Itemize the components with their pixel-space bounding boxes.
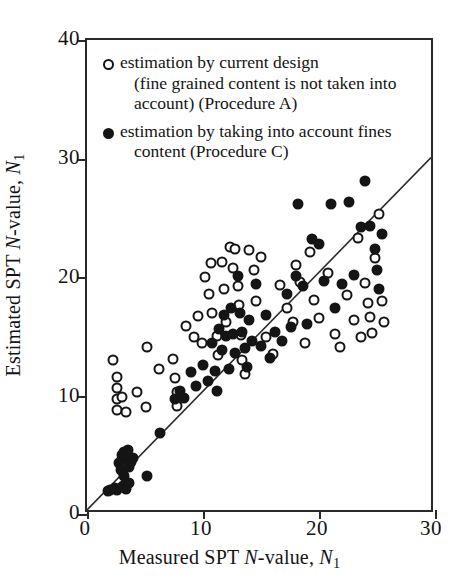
data-point [128, 453, 139, 464]
data-point [121, 407, 132, 418]
data-point [249, 264, 260, 275]
data-point [211, 385, 222, 396]
y-tick-label-10: 10 [38, 385, 80, 406]
legend-a-line1: estimation by current design [120, 52, 319, 72]
y-axis-title-part-b: -value, [2, 174, 24, 236]
data-point [112, 371, 123, 382]
data-point [378, 317, 389, 328]
legend-c-line2: content (Procedure C) [120, 141, 423, 162]
y-tick-label-30: 30 [38, 147, 80, 168]
legend-item-procedure-c: estimation by taking into account fines … [103, 121, 423, 162]
data-point [348, 269, 359, 280]
x-axis-title: Measured SPT N-value, N1 [0, 546, 459, 572]
data-point [334, 341, 345, 352]
data-point [202, 376, 213, 387]
data-point [191, 381, 202, 392]
x-axis-title-n2: N [319, 546, 333, 568]
legend-a-line3: account) (Procedure A) [120, 93, 423, 114]
x-axis-title-part-b: -value, [258, 546, 320, 568]
data-point [251, 295, 262, 306]
y-tick-mark-0 [78, 514, 87, 516]
data-point [179, 392, 190, 403]
x-axis-title-sub: 1 [333, 555, 340, 571]
data-point [260, 309, 271, 320]
data-point [230, 243, 241, 254]
data-point [293, 198, 304, 209]
data-point [155, 428, 166, 439]
y-tick-label-40: 40 [38, 28, 80, 49]
x-tick-mark-20 [319, 510, 321, 519]
data-point [353, 232, 364, 243]
data-point [232, 281, 243, 292]
data-point [200, 272, 211, 283]
data-point [142, 471, 153, 482]
y-axis-title-wrapper: Estimated SPT N-value, N1 [2, 28, 28, 502]
data-point [256, 340, 267, 351]
x-tick-mark-30 [435, 510, 437, 519]
data-point [330, 328, 341, 339]
data-point [367, 327, 378, 338]
chart-legend: estimation by current design (fine grain… [103, 52, 423, 169]
data-point [360, 277, 371, 288]
data-point [244, 314, 255, 325]
data-point [369, 253, 380, 264]
x-tick-label-30: 30 [401, 518, 459, 539]
data-point [374, 209, 385, 220]
data-point [374, 283, 385, 294]
data-point [116, 391, 127, 402]
data-point [309, 294, 320, 305]
data-point [290, 260, 301, 271]
data-point [209, 365, 220, 376]
y-tick-mark-20 [78, 277, 87, 279]
y-axis-title-part-a: Estimated SPT [2, 250, 24, 377]
data-point [314, 313, 325, 324]
data-point [216, 345, 227, 356]
data-point [196, 338, 207, 349]
data-point [376, 295, 387, 306]
y-tick-label-20: 20 [38, 266, 80, 287]
legend-item-procedure-a-text: estimation by current design (fine grain… [120, 52, 423, 114]
data-point [318, 275, 329, 286]
data-point [167, 353, 178, 364]
data-point [180, 320, 191, 331]
y-axis-title: Estimated SPT N-value, N1 [2, 154, 24, 377]
x-tick-label-0: 0 [55, 518, 115, 539]
data-point [216, 256, 227, 267]
data-point [337, 279, 348, 290]
data-point [237, 326, 248, 337]
data-point [242, 362, 253, 373]
data-point [256, 251, 267, 262]
data-point [344, 197, 355, 208]
data-point [276, 335, 287, 346]
data-point [123, 478, 134, 489]
data-point [376, 229, 387, 240]
legend-item-procedure-c-text: estimation by taking into account fines … [120, 121, 423, 162]
data-point [281, 302, 292, 313]
data-point [360, 176, 371, 187]
data-point [153, 364, 164, 375]
y-tick-mark-10 [78, 396, 87, 398]
data-point [186, 366, 197, 377]
data-point [372, 264, 383, 275]
data-point [365, 312, 376, 323]
y-tick-mark-40 [78, 40, 87, 42]
x-axis-title-n: N [244, 546, 258, 568]
data-point [286, 321, 297, 332]
y-axis-title-sub: 1 [11, 154, 27, 161]
data-point [304, 247, 315, 258]
data-point [251, 279, 262, 290]
data-point [203, 288, 214, 299]
legend-c-line1: estimation by taking into account fines [120, 121, 392, 141]
data-point [314, 238, 325, 249]
data-point [265, 352, 276, 363]
data-point [297, 281, 308, 292]
open-circle-icon [103, 59, 114, 70]
data-point [330, 302, 341, 313]
data-point [369, 243, 380, 254]
data-point [244, 244, 255, 255]
data-point [193, 311, 204, 322]
y-axis-title-n2: N [2, 161, 24, 175]
data-point [348, 314, 359, 325]
data-point [281, 288, 292, 299]
data-point [341, 289, 352, 300]
